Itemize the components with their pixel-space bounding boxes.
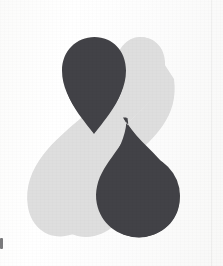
- left-margin-speck: [0, 238, 3, 249]
- logo-mark: [0, 0, 223, 266]
- image-canvas: [0, 0, 223, 266]
- scan-edge-line: [211, 0, 212, 266]
